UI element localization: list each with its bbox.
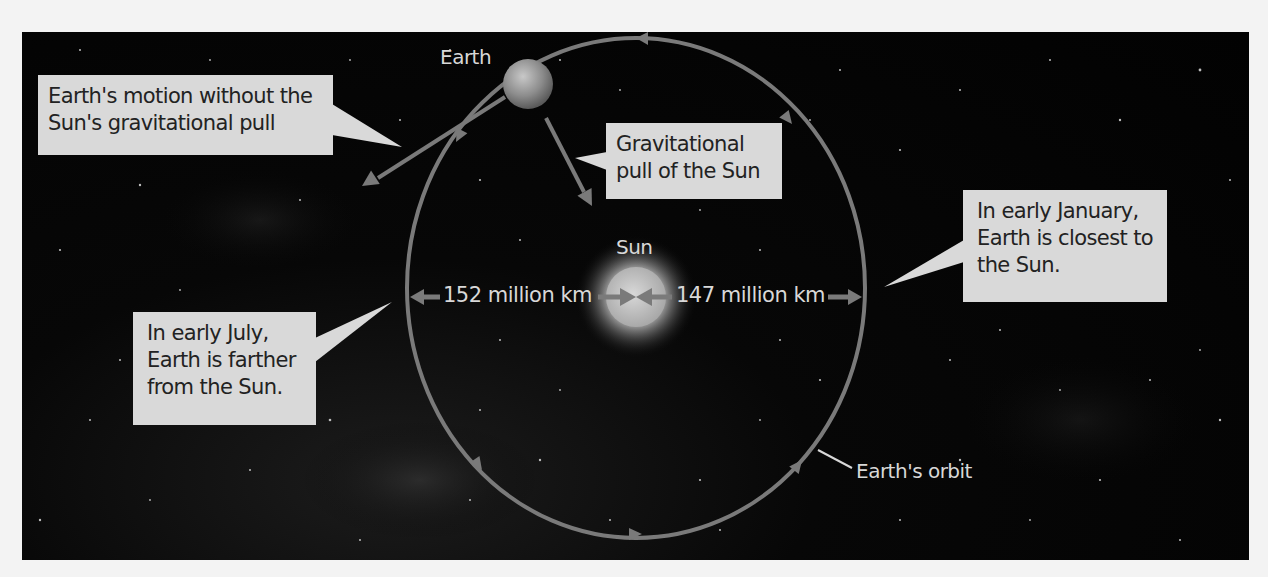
callout-july: In early July, Earth is farther from the… [133, 312, 316, 425]
nebula-cloud [300, 420, 540, 540]
callout-text: In early January, [977, 198, 1157, 225]
callout-january: In early January, Earth is closest to th… [963, 190, 1167, 302]
callout-text: Earth is closest to [977, 225, 1157, 252]
callout-text: In early July, [147, 320, 306, 347]
callout-text: Earth is farther [147, 347, 306, 374]
callout-gravity: Gravitational pull of the Sun [606, 123, 782, 199]
callout-text: Sun's gravitational pull [48, 110, 323, 137]
orbit-label: Earth's orbit [856, 459, 972, 483]
arrow-icon [410, 289, 424, 305]
callout-pointer [884, 240, 964, 287]
nebula-cloud [150, 165, 370, 275]
arrow-icon [848, 289, 862, 305]
orbit-leader-line [818, 450, 852, 468]
callout-text: from the Sun. [147, 374, 306, 401]
callout-text: Gravitational [616, 131, 772, 158]
callout-pointer [332, 104, 402, 147]
earth-icon [503, 59, 553, 109]
sun-label: Sun [616, 235, 653, 259]
callout-pointer [315, 302, 392, 362]
arrow-icon [577, 188, 599, 210]
distance-near-label: 147 million km [676, 283, 825, 307]
arrow-icon [636, 32, 648, 45]
callout-text: the Sun. [977, 252, 1157, 279]
nebula-cloud [950, 350, 1210, 490]
earth-label: Earth [440, 45, 491, 69]
callout-text: pull of the Sun [616, 158, 772, 185]
callout-inertia: Earth's motion without the Sun's gravita… [38, 75, 333, 155]
callout-text: Earth's motion without the [48, 83, 323, 110]
callout-pointer [575, 152, 607, 170]
distance-far-label: 152 million km [443, 283, 592, 307]
arrow-icon [358, 171, 380, 193]
